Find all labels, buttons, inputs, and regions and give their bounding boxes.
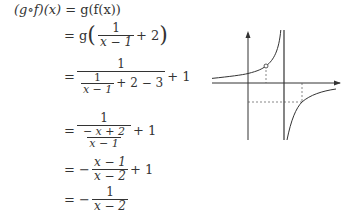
derivation-line-5: = − 1 x − 2 bbox=[64, 186, 130, 212]
step-5-frac: 1 x − 2 bbox=[92, 186, 128, 212]
inner-numerator: 1 bbox=[92, 72, 103, 84]
step-4-prefix: = − bbox=[64, 162, 90, 177]
numerator: 1 bbox=[110, 22, 122, 35]
inner-suffix: + 2 − 3 bbox=[116, 77, 163, 90]
step-1-prefix: = g bbox=[64, 28, 87, 43]
step-3-frac: 1 − x + 2 x − 1 bbox=[77, 112, 131, 150]
derivation-line-3: = 1 − x + 2 x − 1 + 1 bbox=[64, 112, 156, 150]
numerator: 1 bbox=[98, 112, 110, 125]
step-1-frac: 1 x − 1 bbox=[98, 22, 134, 48]
numerator: 1 bbox=[115, 58, 127, 71]
denominator: x − 1 bbox=[98, 35, 134, 49]
inner-frac: − x + 2 x − 1 bbox=[81, 126, 127, 150]
y-axis-arrow-icon bbox=[246, 31, 251, 38]
x-axis-arrow-icon bbox=[334, 81, 341, 86]
lhs: (g∘f)(x) bbox=[14, 2, 61, 17]
step-2-prefix: = bbox=[64, 69, 75, 84]
denominator: x − 2 bbox=[92, 199, 128, 213]
step-3-prefix: = bbox=[64, 123, 75, 138]
curve-right-branch bbox=[287, 89, 336, 140]
derivation: (g∘f)(x) = g(f(x)) = g ( 1 x − 1 + 2 ) =… bbox=[0, 0, 200, 216]
inner-numerator: − x + 2 bbox=[81, 126, 127, 138]
step-0: = g(f(x)) bbox=[65, 2, 121, 17]
open-point bbox=[264, 64, 268, 68]
denominator: x − 2 bbox=[92, 169, 128, 183]
step-4-suffix: + 1 bbox=[130, 162, 153, 177]
step-2-suffix: + 1 bbox=[167, 69, 190, 84]
graph-canvas bbox=[200, 0, 356, 216]
denominator: 1 x − 1 + 2 − 3 bbox=[77, 71, 165, 96]
step-2-frac: 1 1 x − 1 + 2 − 3 bbox=[77, 58, 165, 96]
step-4-frac: x − 1 x − 2 bbox=[92, 156, 128, 182]
derivation-line-2: = 1 1 x − 1 + 2 − 3 + 1 bbox=[64, 58, 190, 96]
left-paren: ( bbox=[87, 24, 96, 46]
right-paren: ) bbox=[159, 24, 168, 46]
derivation-line-0: (g∘f)(x) = g(f(x)) bbox=[14, 2, 121, 17]
numerator: x − 1 bbox=[92, 156, 128, 169]
inner-denominator: x − 1 bbox=[87, 137, 120, 150]
inner-frac: 1 x − 1 bbox=[81, 72, 114, 96]
numerator: 1 bbox=[104, 186, 116, 199]
derivation-line-4: = − x − 1 x − 2 + 1 bbox=[64, 156, 153, 182]
derivation-line-1: = g ( 1 x − 1 + 2 ) bbox=[64, 22, 168, 48]
step-1-suffix: + 2 bbox=[136, 28, 159, 43]
inner-denominator: x − 1 bbox=[81, 83, 114, 96]
step-3-suffix: + 1 bbox=[133, 123, 156, 138]
denominator: − x + 2 x − 1 bbox=[77, 125, 131, 150]
step-5-prefix: = − bbox=[64, 192, 90, 207]
function-graph: y x O 1 2 3 −1 1 2 y = − 1 x−2 bbox=[200, 0, 356, 216]
